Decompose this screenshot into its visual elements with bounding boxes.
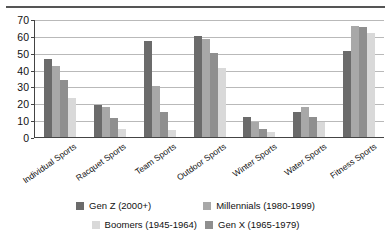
chart-legend: Gen Z (2000+) Millennials (1980-1999) Bo… xyxy=(0,196,391,238)
bar xyxy=(44,59,52,137)
y-axis-tick-label: 0 xyxy=(23,133,29,144)
legend-row-2: Boomers (1945-1964) Gen X (1965-1979) xyxy=(0,215,391,234)
legend-label-millennials: Millennials (1980-1999) xyxy=(216,200,315,211)
x-axis-labels: Individual SportsRacquet SportsTeam Spor… xyxy=(34,140,384,196)
bar xyxy=(309,117,317,137)
x-axis-tick-label: Racquet Sports xyxy=(75,142,128,183)
bar xyxy=(144,41,152,137)
bar xyxy=(218,68,226,137)
plot-frame xyxy=(34,20,384,138)
bar xyxy=(243,117,251,137)
legend-swatch-gen-x xyxy=(205,221,213,229)
y-axis-tick-label: 60 xyxy=(17,32,29,43)
y-axis-tick-label: 10 xyxy=(17,116,29,127)
bar xyxy=(94,105,102,137)
bar xyxy=(210,53,218,137)
y-axis-tick-label: 50 xyxy=(17,48,29,59)
bar-group xyxy=(334,20,384,137)
bar xyxy=(102,107,110,137)
y-axis-tick-mark xyxy=(31,71,34,72)
legend-swatch-boomers xyxy=(92,221,100,229)
legend-item-boomers: Boomers (1945-1964) xyxy=(92,219,197,230)
legend-item-gen-z: Gen Z (2000+) xyxy=(76,200,151,211)
legend-label-gen-z: Gen Z (2000+) xyxy=(89,200,151,211)
x-axis-tick-label: Individual Sports xyxy=(22,142,78,185)
legend-label-boomers: Boomers (1945-1964) xyxy=(105,219,197,230)
y-axis-tick-mark xyxy=(31,37,34,38)
bar-chart: 010203040506070 Individual SportsRacquet… xyxy=(0,14,391,192)
bar-group xyxy=(85,20,135,137)
bar-group xyxy=(35,20,85,137)
bar xyxy=(343,51,351,137)
y-axis-tick-mark xyxy=(31,20,34,21)
bar xyxy=(52,66,60,137)
plot-area: 010203040506070 xyxy=(34,20,384,138)
bar xyxy=(68,98,76,137)
legend-row-1: Gen Z (2000+) Millennials (1980-1999) xyxy=(0,196,391,215)
y-axis-tick-mark xyxy=(31,104,34,105)
bar-group xyxy=(234,20,284,137)
y-axis-tick-mark xyxy=(31,138,34,139)
bar xyxy=(267,132,275,137)
bar-group xyxy=(284,20,334,137)
y-axis-tick-mark xyxy=(31,54,34,55)
bar xyxy=(367,33,375,138)
x-axis-tick-label: Water Sports xyxy=(283,142,328,177)
legend-label-gen-x: Gen X (1965-1979) xyxy=(218,219,299,230)
y-axis-tick-label: 40 xyxy=(17,65,29,76)
top-divider xyxy=(6,6,385,8)
y-axis-tick-mark xyxy=(31,87,34,88)
legend-swatch-gen-z xyxy=(76,202,84,210)
bar xyxy=(110,118,118,137)
legend-swatch-millennials xyxy=(203,202,211,210)
bar xyxy=(301,107,309,137)
bar xyxy=(317,122,325,137)
y-axis-tick-label: 30 xyxy=(17,82,29,93)
bar xyxy=(293,112,301,137)
bar-group xyxy=(185,20,235,137)
bar xyxy=(359,27,367,137)
bar xyxy=(118,129,126,137)
x-axis-tick-label: Outdoor Sports xyxy=(176,142,228,182)
x-axis-tick-label: Winter Sports xyxy=(231,142,278,179)
legend-item-millennials: Millennials (1980-1999) xyxy=(203,200,315,211)
y-axis-tick-label: 20 xyxy=(17,99,29,110)
bar xyxy=(202,39,210,137)
bar xyxy=(194,36,202,137)
bar-group xyxy=(135,20,185,137)
x-axis-tick-label: Team Sports xyxy=(134,142,178,176)
x-axis-tick-label: Fitness Sports xyxy=(328,142,377,180)
bar-groups xyxy=(35,20,384,137)
bar xyxy=(259,129,267,137)
bar xyxy=(152,86,160,137)
y-axis-tick-label: 70 xyxy=(17,15,29,26)
bar xyxy=(160,112,168,137)
y-axis-tick-mark xyxy=(31,121,34,122)
bar xyxy=(251,122,259,137)
bar xyxy=(60,80,68,137)
bar xyxy=(168,130,176,137)
legend-item-gen-x: Gen X (1965-1979) xyxy=(205,219,299,230)
bar xyxy=(351,26,359,137)
